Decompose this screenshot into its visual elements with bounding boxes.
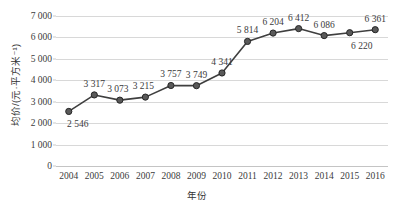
y-axis-tick-label: 2 000 [20,118,52,128]
data-point-marker [66,108,72,114]
data-point-marker [321,32,327,38]
data-point-marker [142,94,148,100]
x-axis-tick-label: 2016 [366,170,385,182]
data-point-label: 4 341 [211,57,232,67]
x-axis-tick-label: 2015 [340,170,359,182]
y-axis-tick-label: 4 000 [20,75,52,85]
data-point-label: 5 814 [237,25,258,35]
x-axis-tick-label: 2008 [161,170,180,182]
data-point-marker [296,26,302,32]
x-axis-tick-label: 2004 [59,170,78,182]
series-line [56,16,388,166]
y-axis-tick-mark [53,166,56,167]
data-point-label: 3 757 [160,69,181,79]
data-point-marker [193,83,199,89]
y-axis-tick-label: 0 [20,161,52,171]
data-point-marker [219,70,225,76]
y-axis-tick-mark [53,101,56,102]
x-axis-tick-label: 2005 [85,170,104,182]
data-point-label: 6 220 [351,41,372,51]
data-point-marker [244,38,250,44]
x-axis-tick-label: 2011 [238,170,257,182]
y-axis-tick-labels: 01 0002 0003 0004 0005 0006 0007 000 [20,0,52,170]
plot-area: 2 5463 3173 0733 2153 7573 7494 3415 814… [56,16,388,166]
y-axis-tick-mark [53,144,56,145]
data-point-marker [91,92,97,98]
x-axis-tick-label: 2013 [289,170,308,182]
x-axis-tick-label: 2010 [213,170,232,182]
data-point-marker [270,30,276,36]
y-axis-tick-label: 7 000 [20,11,52,21]
x-axis-tick-label: 2009 [187,170,206,182]
data-point-label: 6 412 [288,13,309,23]
data-point-label: 3 317 [84,79,105,89]
data-point-label: 6 086 [313,20,334,30]
x-axis-tick-label: 2006 [110,170,129,182]
y-axis-tick-mark [53,58,56,59]
data-point-label: 6 204 [262,17,283,27]
x-axis-title: 年份 [0,188,394,202]
data-point-label: 6 361 [365,14,386,24]
x-axis-tick-label: 2007 [136,170,155,182]
x-axis-tick-label: 2012 [264,170,283,182]
y-axis-tick-mark [53,37,56,38]
y-axis-tick-label: 5 000 [20,54,52,64]
y-axis-tick-label: 6 000 [20,32,52,42]
data-point-marker [168,82,174,88]
y-axis-tick-label: 3 000 [20,97,52,107]
x-axis-tick-labels: 2004200520062007200820092010201120122013… [56,170,388,184]
data-point-label: 2 546 [67,119,88,129]
y-axis-tick-mark [53,80,56,81]
data-point-marker [347,30,353,36]
gridline [56,166,388,167]
data-point-label: 3 215 [133,81,154,91]
x-axis-tick-label: 2014 [315,170,334,182]
data-point-label: 3 749 [186,70,207,80]
y-axis-tick-mark [53,123,56,124]
data-point-label: 3 073 [107,84,128,94]
data-point-marker [117,97,123,103]
data-point-marker [372,27,378,33]
y-axis-tick-label: 1 000 [20,140,52,150]
y-axis-tick-mark [53,16,56,17]
line-chart: 均价/(元·平方米⁻¹) 01 0002 0003 0004 0005 0006… [0,0,394,208]
